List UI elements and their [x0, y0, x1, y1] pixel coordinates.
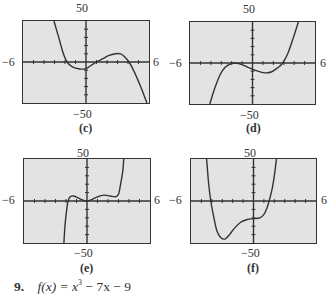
plot-area-c	[22, 20, 150, 104]
y-min-label: −50	[74, 247, 93, 259]
plot-svg-c	[23, 21, 149, 103]
x-max-label: 6	[321, 194, 327, 206]
y-max-label: 50	[243, 3, 255, 15]
plot-area-d	[189, 21, 316, 105]
y-min-label: −50	[241, 247, 260, 259]
plot-area-e	[23, 158, 151, 244]
x-min-label: −6	[2, 194, 15, 206]
x-max-label: 6	[154, 194, 160, 206]
plot-svg-f	[191, 159, 316, 243]
function-curve	[207, 159, 277, 239]
function-expression: f(x) = x3 − 7x − 9	[38, 279, 132, 294]
panel-caption: (f)	[247, 262, 259, 274]
x-min-label: −6	[2, 56, 15, 68]
problem-statement: 9. f(x) = x3 − 7x − 9	[14, 278, 131, 295]
x-min-label: −6	[169, 57, 182, 69]
x-min-label: −6	[169, 194, 182, 206]
y-min-label: −50	[73, 108, 92, 120]
function-lhs: f(x) =	[38, 279, 69, 294]
y-min-label: −50	[240, 109, 259, 121]
function-rest: − 7x − 9	[82, 279, 131, 294]
panel-caption: (c)	[79, 122, 92, 134]
plot-svg-e	[24, 159, 150, 243]
plot-area-f	[190, 158, 317, 244]
plot-svg-d	[190, 22, 315, 104]
panel-caption: (d)	[246, 122, 261, 134]
x-max-label: 6	[153, 56, 159, 68]
problem-number: 9.	[14, 279, 24, 294]
x-max-label: 6	[320, 57, 326, 69]
panel-caption: (e)	[80, 262, 93, 274]
y-max-label: 50	[76, 2, 88, 14]
